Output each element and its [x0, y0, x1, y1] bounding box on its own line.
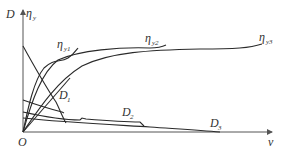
- diagram-canvas: D η y O v η y1 η y2 η y3 D 1 D 2 D 3: [0, 0, 294, 150]
- curve-d3: [23, 118, 220, 132]
- label-eta-y3: η: [259, 30, 265, 44]
- y-axis-label-d: D: [5, 7, 15, 21]
- curve-eta-y2: [23, 45, 166, 132]
- origin-label: O: [18, 135, 27, 149]
- y-axis-label-eta-sub: y: [32, 14, 37, 22]
- label-d3-sub: 3: [217, 124, 222, 132]
- label-eta-y2-sub: y2: [151, 39, 159, 47]
- label-eta-y2: η: [145, 31, 151, 45]
- y-axis-label-eta: η: [26, 6, 32, 20]
- label-eta-y1-sub: y1: [63, 45, 71, 53]
- label-eta-y1: η: [57, 37, 63, 51]
- label-d2-sub: 2: [130, 113, 134, 121]
- label-eta-y3-sub: y3: [265, 38, 273, 46]
- x-axis-label: v: [268, 135, 274, 149]
- label-d1-sub: 1: [67, 96, 71, 104]
